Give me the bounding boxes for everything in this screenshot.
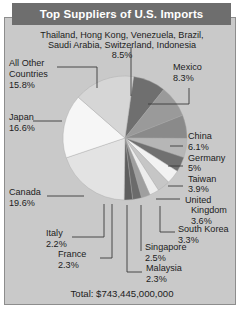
label-taiwan: Taiwan: [188, 174, 216, 184]
leader-south-korea: [160, 206, 175, 232]
label-all-other-countries-value: 15.8%: [9, 80, 35, 90]
label-all-other-countries-l1: All Other: [9, 58, 44, 68]
label-mexico: Mexico: [173, 62, 202, 72]
label-china-value: 6.1%: [188, 142, 209, 152]
pie-slices: [63, 76, 187, 200]
label-italy-value: 2.2%: [46, 239, 67, 249]
label-uk-l2: Kingdom: [191, 205, 227, 215]
label-top-note-value: 8.5%: [112, 50, 133, 60]
label-uk-l1: United: [185, 195, 211, 205]
label-france-value: 2.3%: [58, 260, 79, 270]
leader-malaysia: [127, 205, 142, 272]
leader-all-other: [57, 67, 97, 88]
label-china: China: [188, 131, 213, 141]
label-singapore-value: 2.5%: [145, 253, 166, 263]
label-taiwan-value: 3.9%: [188, 184, 209, 194]
label-top-note-line1: Thailand, Hong Kong, Venezuela, Brazil,: [40, 30, 203, 40]
leader-france: [100, 204, 112, 258]
label-mexico-value: 8.3%: [173, 73, 194, 83]
label-germany-value: 5%: [188, 163, 201, 173]
label-south-korea: South Korea: [178, 224, 229, 234]
label-germany: Germany: [188, 153, 226, 163]
chart-figure: Top Suppliers of U.S. Imports: [0, 0, 244, 317]
leader-italy: [72, 204, 104, 237]
label-malaysia: Malaysia: [146, 263, 183, 273]
label-canada: Canada: [9, 187, 42, 197]
label-singapore: Singapore: [145, 242, 186, 252]
label-malaysia-value: 2.3%: [146, 274, 167, 284]
label-japan-value: 16.6%: [9, 123, 35, 133]
pie-chart-canvas: Thailand, Hong Kong, Venezuela, Brazil, …: [0, 0, 244, 317]
total-label: Total: $743,445,000,000: [71, 288, 174, 299]
label-canada-value: 19.6%: [9, 198, 35, 208]
label-italy: Italy: [46, 228, 63, 238]
label-all-other-countries-l2: Countries: [9, 69, 48, 79]
label-japan: Japan: [9, 112, 34, 122]
label-france: France: [58, 249, 86, 259]
label-top-note-line2: Saudi Arabia, Switzerland, Indonesia: [48, 40, 197, 50]
